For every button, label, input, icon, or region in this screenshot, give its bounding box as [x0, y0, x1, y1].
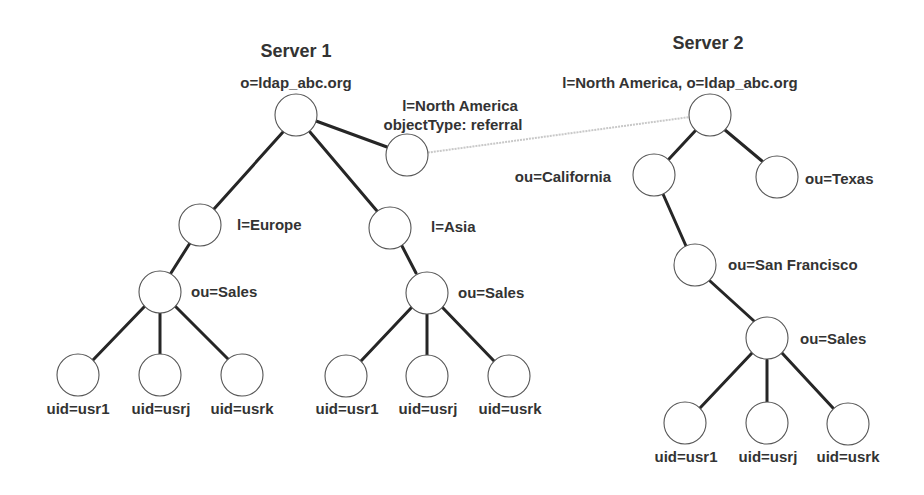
label-san-francisco: ou=San Francisco — [728, 256, 858, 273]
node-asia-usrj[interactable] — [406, 355, 448, 397]
node-asia-usr1[interactable] — [325, 355, 367, 397]
edge-sales3-usr1 — [700, 353, 752, 408]
node-sf-usrj[interactable] — [746, 402, 788, 444]
label-root1: o=ldap_abc.org — [240, 74, 351, 91]
edge-root1-referral — [316, 121, 387, 147]
label-asia: l=Asia — [431, 218, 476, 235]
node-asia-sales[interactable] — [406, 272, 448, 314]
server1-nodes — [57, 94, 530, 397]
node-europe-sales[interactable] — [139, 271, 181, 313]
label-referral-line2: objectType: referral — [384, 116, 523, 133]
node-asia-usrk[interactable] — [488, 355, 530, 397]
node-sf-usr1[interactable] — [664, 402, 706, 444]
label-texas: ou=Texas — [805, 170, 874, 187]
node-referral-north-america[interactable] — [386, 134, 428, 176]
node-europe[interactable] — [179, 204, 221, 246]
label-sf-usrj: uid=usrj — [739, 448, 798, 465]
edge-sales2-usrk — [442, 307, 494, 361]
label-europe-usrj: uid=usrj — [132, 400, 191, 417]
label-asia-usrj: uid=usrj — [399, 400, 458, 417]
node-root1[interactable] — [275, 94, 317, 136]
node-europe-usrj[interactable] — [139, 354, 181, 396]
edge-root1-europe — [214, 132, 283, 209]
label-referral-line1: l=North America — [402, 97, 518, 114]
node-root2[interactable] — [689, 94, 731, 136]
label-california: ou=California — [515, 168, 612, 185]
node-europe-usr1[interactable] — [57, 354, 99, 396]
ldap-referral-diagram: Server 1 o=ldap_abc.org l=North America … — [0, 0, 924, 495]
edge-sales1-usr1 — [93, 306, 145, 360]
node-california[interactable] — [633, 154, 675, 196]
label-asia-usrk: uid=usrk — [479, 400, 543, 417]
label-sf-sales: ou=Sales — [800, 330, 866, 347]
node-asia[interactable] — [369, 207, 411, 249]
server1-edges — [93, 121, 494, 361]
edge-california-sanfrancisco — [663, 194, 686, 246]
label-europe-usr1: uid=usr1 — [47, 400, 110, 417]
edge-sales1-usrk — [175, 306, 229, 360]
label-sf-usrk: uid=usrk — [817, 448, 881, 465]
node-europe-usrk[interactable] — [221, 354, 263, 396]
node-san-francisco[interactable] — [674, 244, 716, 286]
node-sf-sales[interactable] — [746, 317, 788, 359]
edge-sales3-usrk — [782, 353, 833, 408]
edge-root1-asia — [310, 132, 377, 211]
label-root2: l=North America, o=ldap_abc.org — [562, 74, 797, 91]
node-sf-usrk[interactable] — [827, 403, 869, 445]
label-europe-usrk: uid=usrk — [211, 400, 275, 417]
edge-root2-california — [669, 130, 696, 159]
node-texas[interactable] — [756, 156, 798, 198]
label-europe-sales: ou=Sales — [191, 283, 257, 300]
edge-sales2-usr1 — [361, 307, 412, 361]
label-asia-usr1: uid=usr1 — [316, 400, 379, 417]
edge-sanfrancisco-sales — [710, 281, 754, 321]
label-sf-usr1: uid=usr1 — [655, 448, 718, 465]
label-europe: l=Europe — [237, 216, 302, 233]
edge-asia-sales — [402, 246, 416, 273]
edge-europe-sales — [171, 243, 190, 273]
label-asia-sales: ou=Sales — [458, 284, 524, 301]
server2-title: Server 2 — [672, 33, 743, 53]
server1-title: Server 1 — [260, 41, 331, 61]
edge-root2-texas — [725, 130, 762, 161]
